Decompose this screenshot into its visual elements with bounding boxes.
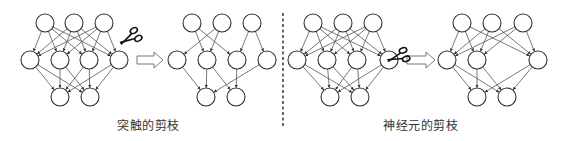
connection-edge xyxy=(241,31,249,51)
connection-edge xyxy=(255,31,263,51)
neuron-node-top xyxy=(483,14,501,32)
connection-edge xyxy=(336,67,352,89)
connection-edge xyxy=(358,69,360,88)
connection-edge xyxy=(377,31,386,51)
neuron-node-bottom xyxy=(81,88,99,106)
neuron-node-middle xyxy=(288,51,306,69)
neuron-node-middle xyxy=(51,51,69,69)
neuron-node-middle xyxy=(468,51,486,69)
panel-neuron-before xyxy=(288,14,398,106)
neuron-node-top xyxy=(65,14,83,32)
neuron-node-middle xyxy=(228,51,246,69)
caption-synapse-pruning: 突触的剪枝 xyxy=(117,116,180,133)
connection-edge xyxy=(301,31,310,51)
neuron-node-top xyxy=(514,14,532,32)
connection-edge xyxy=(483,67,501,90)
neuron-node-bottom xyxy=(227,88,245,106)
connection-edge xyxy=(303,67,324,90)
connection-edge xyxy=(107,31,115,51)
neuron-node-top xyxy=(95,14,113,32)
connection-edge xyxy=(451,31,459,51)
neuron-node-top xyxy=(36,14,54,32)
scissors-icon xyxy=(117,26,143,49)
connection-edge xyxy=(34,31,42,51)
neuron-node-top xyxy=(453,14,471,32)
neuron-node-middle xyxy=(529,51,547,69)
panel-synapse-before xyxy=(21,14,128,106)
connection-edge xyxy=(93,31,101,51)
neuron-node-middle xyxy=(438,51,456,69)
neuron-node-middle xyxy=(168,51,186,69)
neuron-node-bottom xyxy=(197,88,215,106)
neuron-node-middle xyxy=(21,51,39,69)
neuron-node-bottom xyxy=(498,88,516,106)
neuron-node-top xyxy=(183,14,201,32)
connection-edge xyxy=(484,29,516,54)
connection-edge xyxy=(184,29,215,54)
pruning-diagram xyxy=(0,0,564,141)
connection-edge xyxy=(36,67,54,90)
panel-synapse-after xyxy=(168,14,276,106)
caption-neuron-pruning: 神经元的剪枝 xyxy=(383,116,458,133)
neuron-node-bottom xyxy=(351,88,369,106)
connection-edge xyxy=(213,67,231,89)
neuron-node-top xyxy=(304,14,322,32)
neuron-node-middle xyxy=(318,51,336,69)
hollow-arrow-icon xyxy=(407,52,435,68)
neuron-node-top xyxy=(243,14,261,32)
neuron-node-middle xyxy=(80,51,98,69)
neuron-node-middle xyxy=(258,51,276,69)
connection-edge xyxy=(37,29,67,54)
connection-edge xyxy=(526,31,534,51)
neuron-node-bottom xyxy=(468,88,486,106)
connection-edge xyxy=(453,67,471,90)
neuron-node-top xyxy=(213,14,231,32)
connection-edge xyxy=(454,29,485,54)
neuron-node-top xyxy=(334,14,352,32)
connection-edge xyxy=(366,67,384,89)
neuron-node-bottom xyxy=(51,88,69,106)
connection-edge xyxy=(513,67,532,90)
connection-edge xyxy=(96,67,114,89)
neuron-node-middle xyxy=(198,51,216,69)
network-panels xyxy=(21,14,547,106)
connection-edge xyxy=(183,67,201,89)
connection-edge xyxy=(211,31,219,51)
neuron-node-bottom xyxy=(321,88,339,106)
neuron-node-middle xyxy=(348,51,366,69)
connection-edge xyxy=(206,69,207,88)
panel-neuron-after xyxy=(438,14,547,106)
neuron-node-middle xyxy=(110,51,128,69)
hollow-arrow-icon xyxy=(137,52,163,68)
neuron-node-top xyxy=(364,14,382,32)
